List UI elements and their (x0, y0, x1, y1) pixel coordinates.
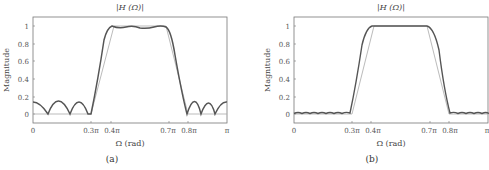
y-tick-label: 0.8 (279, 41, 290, 49)
x-tick-label: 0.4π (104, 127, 120, 135)
x-tick-label: 0.8π (442, 127, 458, 135)
y-tick-label: 0.4 (279, 76, 291, 84)
x-tick-label: 0.7π (160, 127, 176, 135)
figure: |H (Ω)| 1 0.8 0.6 0.4 0.2 0 0 0.3π 0.4π (0, 0, 489, 170)
panel-a-y-axis-label: Magnitude (2, 48, 11, 92)
x-tick-label: 0.7π (421, 127, 437, 135)
panel-b-caption: (b) (366, 154, 379, 164)
panel-a-title: |H (Ω)| (116, 3, 144, 12)
x-tick-label: 0.3π (83, 127, 99, 135)
panel-b-y-axis-label: Magnitude (263, 48, 272, 92)
panel-a-x-axis-label: Ω (rad) (115, 139, 144, 148)
x-tick-label: 0.4π (365, 127, 381, 135)
x-tick-label: 0 (31, 127, 35, 135)
panel-a-y-ticks: 1 0.8 0.6 0.4 0.2 0 (18, 23, 35, 119)
x-tick-label: 0 (292, 127, 296, 135)
panel-a-response-curve (33, 26, 227, 114)
x-tick-label: 0.3π (344, 127, 360, 135)
panel-a-ideal-curve (33, 26, 227, 114)
y-tick-label: 0.2 (279, 94, 290, 102)
panel-a-caption: (a) (106, 154, 118, 164)
panel-b-x-axis-label: Ω (rad) (376, 139, 405, 148)
y-tick-label: 0 (25, 111, 29, 119)
y-tick-label: 0.4 (18, 76, 30, 84)
y-tick-label: 0.6 (279, 58, 291, 66)
panel-a: |H (Ω)| 1 0.8 0.6 0.4 0.2 0 0 0.3π 0.4π (2, 3, 230, 164)
y-tick-label: 1 (25, 23, 29, 31)
panel-b-frame (294, 17, 488, 123)
x-tick-label: 0.8π (181, 127, 197, 135)
x-tick-label: π (485, 127, 489, 135)
y-tick-label: 0.6 (18, 58, 30, 66)
y-tick-label: 0.8 (18, 41, 29, 49)
x-tick-label: π (225, 127, 230, 135)
y-tick-label: 0 (286, 111, 290, 119)
panel-b-title: |H (Ω)| (377, 3, 405, 12)
panel-b-ideal-curve (294, 26, 489, 114)
panel-a-frame (33, 17, 227, 123)
y-tick-label: 1 (286, 23, 290, 31)
panel-b-response-curve (294, 26, 489, 114)
panel-b: |H (Ω)| 1 0.8 0.6 0.4 0.2 0 0 0.3π 0.4π … (263, 3, 489, 164)
y-tick-label: 0.2 (18, 94, 29, 102)
panel-b-y-ticks: 1 0.8 0.6 0.4 0.2 0 (279, 23, 296, 119)
